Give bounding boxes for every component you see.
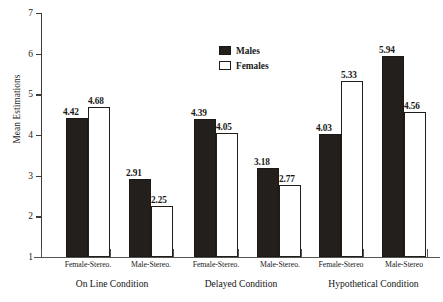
legend-item-males: Males bbox=[219, 44, 269, 57]
filled-square-icon bbox=[219, 46, 231, 56]
bar-label-males-g2-c2: 3.18 bbox=[254, 157, 270, 167]
legend-label-females: Females bbox=[236, 61, 269, 71]
bar-males-g1-c1 bbox=[66, 118, 88, 257]
x-group-label-hypothetical: Hypothetical Condition bbox=[306, 278, 441, 289]
x-tick-5 bbox=[363, 249, 364, 258]
y-axis-line bbox=[41, 13, 42, 258]
y-tick-label-6: 6 bbox=[20, 49, 33, 59]
bar-label-females-g3-c2: 4.56 bbox=[404, 101, 420, 111]
bar-males-g2-c2 bbox=[257, 168, 279, 257]
y-tick-label-1: 1 bbox=[20, 252, 33, 262]
bar-label-females-g1-c1: 4.68 bbox=[88, 96, 104, 106]
bar-label-females-g3-c1: 5.33 bbox=[341, 70, 357, 80]
outlined-square-icon bbox=[219, 61, 231, 71]
bar-females-g3-c1 bbox=[341, 81, 363, 257]
bar-females-g1-c2 bbox=[151, 206, 173, 257]
x-axis-line bbox=[34, 257, 440, 259]
bar-label-males-g3-c1: 4.03 bbox=[316, 123, 332, 133]
bar-label-males-g1-c2: 2.91 bbox=[126, 168, 142, 178]
bar-label-females-g1-c2: 2.25 bbox=[151, 195, 167, 205]
y-tick-label-3: 3 bbox=[20, 171, 33, 181]
bar-chart-figure: Mean Estimations 1 2 3 4 5 6 7 4.42 4.68… bbox=[0, 0, 443, 302]
bar-females-g3-c2 bbox=[404, 112, 426, 257]
legend-label-males: Males bbox=[236, 46, 260, 56]
x-tick-4 bbox=[301, 249, 302, 258]
y-tick-label-2: 2 bbox=[20, 211, 33, 221]
bar-label-males-g3-c2: 5.94 bbox=[379, 45, 395, 55]
y-axis-title: Mean Estimations bbox=[12, 49, 22, 169]
x-tick-0 bbox=[41, 249, 42, 258]
bar-males-g3-c2 bbox=[382, 56, 404, 257]
bar-label-males-g1-c1: 4.42 bbox=[63, 107, 79, 117]
x-tick-3 bbox=[238, 249, 239, 258]
bar-males-g3-c1 bbox=[319, 134, 341, 257]
x-tick-6 bbox=[427, 249, 428, 258]
legend-item-females: Females bbox=[219, 59, 269, 72]
x-group-label-delayed: Delayed Condition bbox=[186, 278, 296, 289]
x-category-label-g3-c2: Male-Stereo bbox=[365, 260, 443, 269]
bar-females-g1-c1 bbox=[88, 107, 110, 257]
y-tick-label-4: 4 bbox=[20, 130, 33, 140]
bar-label-females-g2-c1: 4.05 bbox=[216, 122, 232, 132]
y-tick-label-7: 7 bbox=[20, 8, 33, 18]
bar-males-g1-c2 bbox=[129, 179, 151, 257]
x-group-label-online: On Line Condition bbox=[58, 278, 166, 289]
legend: Males Females bbox=[219, 44, 269, 74]
bar-label-females-g2-c2: 2.77 bbox=[279, 174, 295, 184]
bar-females-g2-c2 bbox=[279, 185, 301, 257]
bar-label-males-g2-c1: 4.39 bbox=[191, 108, 207, 118]
x-tick-1 bbox=[110, 249, 111, 258]
bar-females-g2-c1 bbox=[216, 133, 238, 257]
bar-males-g2-c1 bbox=[194, 119, 216, 257]
x-tick-2 bbox=[173, 249, 174, 258]
y-tick-label-5: 5 bbox=[20, 89, 33, 99]
